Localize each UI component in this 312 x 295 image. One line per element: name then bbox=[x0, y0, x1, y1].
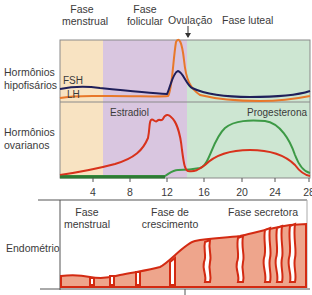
endo-growth-line2: crescimento bbox=[140, 218, 200, 230]
endo-menstrual-label: Fase menstrual bbox=[62, 206, 112, 230]
progesterone-label: Progesterona bbox=[247, 107, 307, 119]
endo-growth-line1: Fase de bbox=[140, 206, 200, 218]
tick-8: 8 bbox=[124, 186, 136, 198]
x-axis-ticks bbox=[93, 178, 309, 182]
tick-28: 28 bbox=[301, 186, 312, 198]
estradiol-label: Estradiol bbox=[110, 107, 149, 119]
endo-menstrual-line2: menstrual bbox=[62, 218, 112, 230]
endo-secretory-label: Fase secretora bbox=[228, 206, 298, 218]
menstrual-phase-band bbox=[60, 40, 103, 178]
endo-menstrual-line1: Fase bbox=[62, 206, 112, 218]
fsh-label: FSH bbox=[63, 75, 83, 87]
lh-label: LH bbox=[67, 89, 80, 101]
tick-24: 24 bbox=[267, 186, 283, 198]
tick-4: 4 bbox=[87, 186, 99, 198]
cycle-diagram bbox=[0, 0, 312, 295]
tick-16: 16 bbox=[196, 186, 212, 198]
ovulation-arrowhead-icon bbox=[185, 33, 191, 38]
endo-growth-label: Fase de crescimento bbox=[140, 206, 200, 230]
tick-20: 20 bbox=[234, 186, 250, 198]
tick-12: 12 bbox=[159, 186, 175, 198]
